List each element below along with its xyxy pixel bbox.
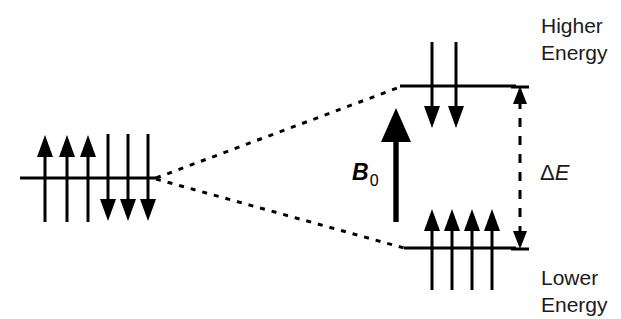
lower-energy-label-line2: Energy [541, 293, 608, 316]
field-symbol-text: B [352, 159, 369, 185]
correlation-line-lower [156, 179, 404, 248]
degenerate-spin-down-arrows [100, 134, 156, 221]
diagram-canvas: B0 Higher Energy [0, 0, 621, 319]
higher-energy-label-line2: Energy [541, 41, 608, 64]
zeeman-splitting-diagram: B0 Higher Energy [0, 0, 621, 319]
energy-gap-label: ΔE [540, 160, 570, 185]
higher-energy-label-line1: Higher [541, 14, 603, 37]
lower-level-group [404, 209, 516, 290]
upper-level-group [400, 42, 516, 128]
delta-symbol-text: Δ [540, 160, 555, 185]
magnetic-field-label: B0 [352, 159, 379, 189]
degenerate-spin-up-arrows [37, 135, 96, 222]
field-subscript-text: 0 [370, 172, 379, 189]
energy-gap-indicator [511, 86, 529, 249]
energy-gap-arrowhead-bottom [513, 231, 527, 249]
energy-gap-arrowhead-top [513, 86, 527, 104]
magnetic-field-arrow [381, 108, 411, 222]
lower-energy-label-line1: Lower [541, 266, 598, 289]
degenerate-level-group [20, 134, 156, 222]
delta-variable-text: E [555, 160, 570, 185]
